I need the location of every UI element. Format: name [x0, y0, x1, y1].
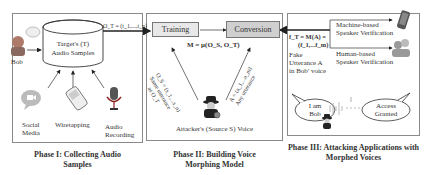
phase3-caption-line1: Phase III: Attacking Applications with	[282, 143, 425, 153]
machine-verification-line2: Speaker Verification	[336, 29, 393, 37]
bubble-i-am-line1: I am	[303, 102, 327, 110]
phone-icon	[65, 86, 88, 111]
fake-utterance-line1: Fake	[289, 51, 303, 59]
database-label-line1: Target's (T)	[49, 40, 97, 48]
mobile-device-icon	[396, 10, 410, 30]
fake-utterance-line3: in Bob' voice	[289, 67, 326, 75]
model-formula: M = μ(O_S, O_T)	[187, 41, 240, 49]
speech-cloud-icon	[26, 27, 40, 37]
fake-formula-line1: f_T = M(A) =	[289, 33, 326, 41]
phase2-caption-line2: Morphing Model	[146, 160, 283, 170]
phase2-caption-line1: Phase II: Building Voice	[146, 150, 283, 160]
social-media-video-icon	[21, 90, 41, 110]
human-verification-line1: Human-based	[336, 50, 375, 58]
source-audio-recording-line2: Recording	[105, 131, 134, 139]
source-social-media-line2: Media	[22, 129, 40, 137]
phase3-caption-line2: Morphed Voices	[282, 153, 425, 163]
target-samples-formula: O_T = (t_1,...,t_n)	[103, 22, 147, 30]
training-box: Training	[152, 22, 199, 37]
bubble-access-line2: Granted	[368, 110, 404, 118]
microphone-icon	[107, 87, 121, 110]
phase1-caption: Phase I: Collecting Audio Samples	[12, 150, 143, 170]
fake-utterance-line2: Utterance A	[289, 59, 323, 67]
machine-verification-line1: Machine-based	[336, 21, 379, 29]
bob-label: Bob	[11, 58, 23, 66]
bubble-i-am-line2: Bob	[303, 110, 327, 118]
phase3-caption: Phase III: Attacking Applications with M…	[282, 143, 425, 163]
human-verification-line2: Speaker Verification	[336, 58, 393, 66]
bob-avatar-icon	[11, 36, 25, 56]
source-wiretapping: Wiretapping	[55, 121, 90, 129]
phase1-caption-line1: Phase I: Collecting Audio	[12, 150, 143, 160]
database-label-line2: Audio Samples	[49, 49, 97, 57]
bubble-access-line1: Access	[368, 102, 404, 110]
human-group-icon	[392, 39, 410, 57]
fake-formula-line2: (f_1,...f_m)	[298, 41, 328, 49]
source-audio-recording-line1: Audio	[105, 123, 123, 131]
attacker-spy-icon	[203, 96, 220, 118]
attacker-voice-label: Attacker's (Source S) Voice	[146, 125, 283, 133]
phase1-caption-line2: Samples	[12, 160, 143, 170]
conversion-box: Conversion	[226, 21, 280, 38]
phase2-caption: Phase II: Building Voice Morphing Model	[146, 150, 283, 170]
source-social-media-line1: Social	[22, 121, 40, 129]
